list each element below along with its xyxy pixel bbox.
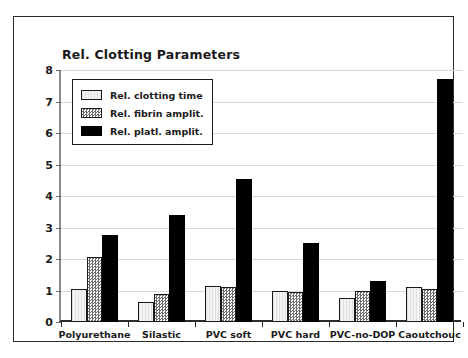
legend-label: Rel. platl. amplit. [110, 126, 203, 137]
bar [154, 294, 170, 322]
y-tick-label: 5 [45, 158, 53, 171]
y-tick-label: 3 [45, 221, 53, 234]
bar [339, 298, 355, 322]
x-tick-label: PVC-no-DOP [330, 329, 396, 340]
x-tick-label: Silastic [142, 329, 181, 340]
legend-swatch [81, 126, 102, 136]
x-tick-mark [396, 322, 397, 327]
figure-border: Rel. Clotting Parameters 012345678 Polyu… [13, 16, 454, 342]
bar [102, 235, 118, 322]
legend-swatch [81, 90, 102, 100]
x-tick-mark [262, 322, 263, 327]
legend-item: Rel. platl. amplit. [81, 122, 204, 140]
bar [169, 215, 185, 322]
y-tick-label: 7 [45, 95, 53, 108]
chart-figure: Rel. Clotting Parameters 012345678 Polyu… [0, 0, 468, 358]
bar [422, 289, 438, 322]
chart-title: Rel. Clotting Parameters [62, 47, 240, 62]
chart-legend: Rel. clotting timeRel. fibrin amplit.Rel… [72, 79, 213, 145]
bar [236, 179, 252, 322]
x-tick-label: Caoutchouc [398, 329, 461, 340]
y-tick-label: 6 [45, 127, 53, 140]
legend-label: Rel. fibrin amplit. [110, 108, 204, 119]
legend-swatch [81, 108, 102, 118]
y-tick-label: 8 [45, 64, 53, 77]
bar [87, 257, 103, 322]
x-tick-mark [329, 322, 330, 327]
bar [221, 287, 237, 322]
bar [437, 79, 453, 322]
legend-label: Rel. clotting time [110, 90, 203, 101]
x-tick-label: Polyurethane [59, 329, 131, 340]
legend-item: Rel. fibrin amplit. [81, 104, 204, 122]
x-tick-mark [128, 322, 129, 327]
bar [303, 243, 319, 322]
x-tick-mark [195, 322, 196, 327]
bar [272, 291, 288, 323]
x-tick-mark [463, 322, 464, 327]
bar [71, 289, 87, 322]
bar [406, 287, 422, 322]
x-tick-mark [61, 322, 62, 327]
bar [288, 292, 304, 322]
legend-item: Rel. clotting time [81, 86, 204, 104]
bar [138, 302, 154, 322]
y-tick-label: 1 [45, 284, 53, 297]
x-tick-label: PVC hard [271, 329, 320, 340]
y-tick-label: 4 [45, 190, 53, 203]
y-tick-label: 0 [45, 316, 53, 329]
x-tick-label: PVC soft [206, 329, 251, 340]
bar [355, 291, 371, 323]
bar [205, 286, 221, 322]
bar [370, 281, 386, 322]
y-tick-label: 2 [45, 253, 53, 266]
